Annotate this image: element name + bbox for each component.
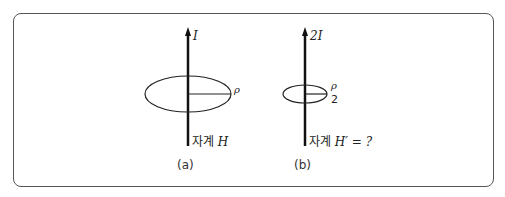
wire-b <box>302 27 308 146</box>
field-prefix-a: 자계 <box>192 135 214 149</box>
current-label-a: I <box>193 29 198 43</box>
radius-label-a: ρ <box>234 84 240 95</box>
field-label-a: 자계 H <box>192 132 228 149</box>
field-label-b: 자계 H′ = ? <box>309 132 372 149</box>
radius-den-b: 2 <box>331 93 338 106</box>
wire-a <box>185 27 191 146</box>
diagram-drawing <box>0 0 505 197</box>
field-prefix-b: 자계 <box>309 135 331 149</box>
caption-a: (a) <box>177 158 194 172</box>
field-symbol-b: H′ = ? <box>335 135 372 149</box>
radius-num-b: ρ <box>331 80 337 91</box>
current-label-b: 2I <box>310 29 322 43</box>
field-symbol-a: H <box>218 135 228 149</box>
caption-b: (b) <box>294 158 311 172</box>
